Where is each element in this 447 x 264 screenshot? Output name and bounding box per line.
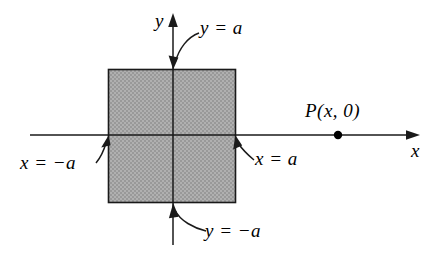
math-figure: y x y = a y = −a x = −a x = a P(x, 0) <box>0 0 447 264</box>
y-axis-arrowhead <box>168 13 178 27</box>
leader-line-y-eq-a <box>175 33 199 63</box>
leader-line-y-eq-neg-a <box>175 210 206 231</box>
x-axis-label: x <box>411 141 420 160</box>
label-y-equals-negative-a: y = −a <box>205 221 261 240</box>
label-x-equals-a: x = a <box>255 149 298 168</box>
leader-arrowhead-y-eq-neg-a <box>169 203 179 218</box>
x-axis-arrowhead <box>406 130 420 140</box>
label-y-equals-a: y = a <box>200 18 243 37</box>
point-p-label: P(x, 0) <box>305 101 360 120</box>
y-axis-label: y <box>155 11 164 30</box>
point-p-marker <box>334 131 342 139</box>
shaded-square-region <box>109 70 236 203</box>
label-x-equals-negative-a: x = −a <box>20 153 76 172</box>
leader-arrowhead-y-eq-a <box>169 56 179 70</box>
